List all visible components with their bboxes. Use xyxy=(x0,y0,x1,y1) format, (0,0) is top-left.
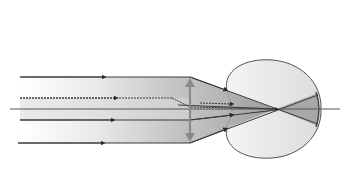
ray-diagram-canvas xyxy=(0,0,351,169)
optics-diagram xyxy=(0,0,351,169)
focal-point xyxy=(274,107,277,110)
